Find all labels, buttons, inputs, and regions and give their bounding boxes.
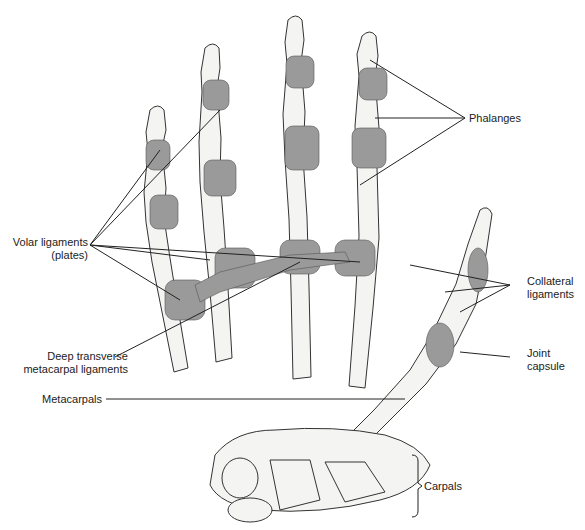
label-deep-transverse-line1: Deep transverse [0, 350, 128, 363]
label-deep-transverse-line2: metacarpal ligaments [0, 363, 128, 376]
label-carpals: Carpals [424, 480, 462, 493]
label-volar-ligaments-line2: (plates) [0, 249, 88, 262]
finger-middle [283, 16, 319, 379]
hand-ligament-diagram [0, 0, 585, 530]
label-metacarpals: Metacarpals [0, 393, 102, 406]
finger-ring [199, 44, 236, 362]
label-joint-capsule-line1: Joint [527, 347, 565, 360]
label-joint-capsule-line2: capsule [527, 360, 565, 373]
label-volar-ligaments-line1: Volar ligaments [0, 236, 88, 249]
label-volar-ligaments: Volar ligaments (plates) [0, 236, 88, 262]
label-phalanges: Phalanges [469, 112, 521, 125]
finger-index [349, 32, 387, 388]
label-collateral-ligaments: Collateral ligaments [527, 275, 574, 301]
label-collateral-line1: Collateral [527, 275, 574, 288]
label-deep-transverse: Deep transverse metacarpal ligaments [0, 350, 128, 376]
label-collateral-line2: ligaments [527, 288, 574, 301]
label-joint-capsule: Joint capsule [527, 347, 565, 373]
finger-little [144, 106, 188, 372]
carpal-bones [210, 428, 430, 522]
